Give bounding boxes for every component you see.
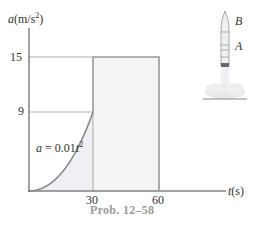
- y-axis-unit: (m/s: [14, 12, 35, 26]
- y-axis-label: a(m/s2): [8, 11, 43, 27]
- y-axis-unit-close: ): [39, 12, 43, 26]
- equation-exponent: 2: [79, 140, 83, 149]
- rocket-label-a: A: [235, 39, 242, 54]
- x-axis-label: t(s): [228, 184, 244, 199]
- y-tick-15: 15: [10, 50, 22, 65]
- area-constant-region: [93, 57, 159, 191]
- problem-caption: Prob. 12–58: [90, 203, 154, 218]
- acceleration-time-graph: [0, 0, 261, 227]
- equation-coefficient: = 0.01: [42, 141, 76, 155]
- y-tick-9: 9: [18, 104, 24, 119]
- equation-annotation: a = 0.01t2: [36, 140, 83, 156]
- rocket-label-b: B: [235, 14, 242, 29]
- x-axis-unit: (s): [231, 184, 244, 198]
